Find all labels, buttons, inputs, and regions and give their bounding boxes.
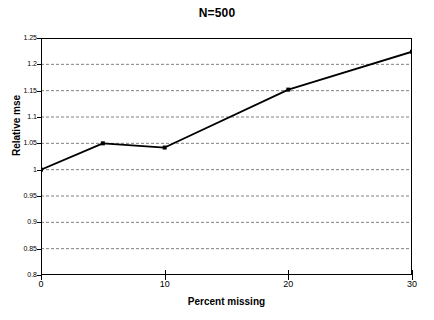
chart-container: N=500 Relative mse 0.80.850.90.9511.051.… (0, 0, 434, 320)
x-axis-tick-label: 10 (145, 279, 185, 290)
x-axis-title: Percent missing (41, 296, 412, 307)
x-axis-tick-label: 30 (392, 279, 432, 290)
x-axis-tick-label: 20 (268, 279, 308, 290)
data-series-line (41, 38, 412, 275)
data-point-marker (163, 146, 167, 150)
y-axis-tick-marks (0, 38, 41, 275)
chart-title: N=500 (0, 6, 434, 20)
plot-area (41, 38, 412, 275)
data-point-marker (101, 141, 105, 145)
data-point-marker (286, 88, 290, 92)
x-axis-tick-label: 0 (21, 279, 61, 290)
data-point-marker (410, 50, 412, 54)
data-point-marker (41, 168, 43, 172)
x-axis-tick-labels: 0102030 (41, 279, 412, 295)
series-line (41, 52, 412, 170)
